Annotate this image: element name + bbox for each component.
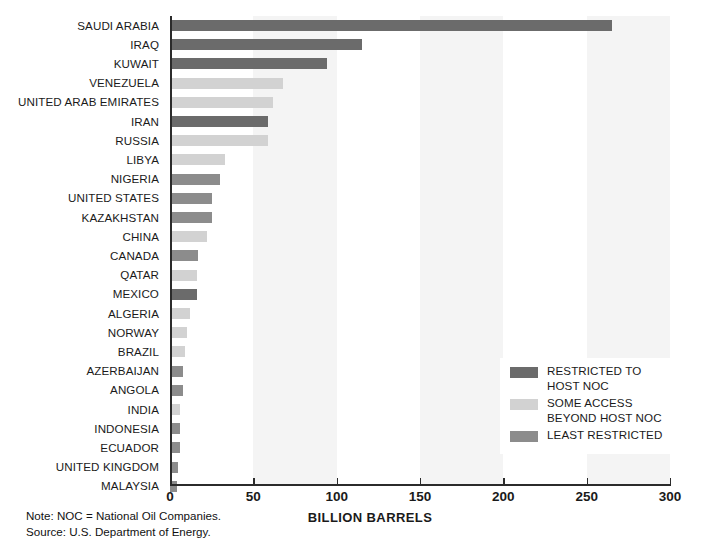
bar <box>170 231 207 242</box>
category-label: IRAN <box>131 115 159 128</box>
x-tick-label: 100 <box>325 489 348 504</box>
x-tick-label: 250 <box>575 489 598 504</box>
x-tick <box>587 478 588 485</box>
bar <box>170 154 225 165</box>
bar-row <box>170 54 670 73</box>
category-label: MEXICO <box>113 287 159 300</box>
category-label: KAZAKHSTAN <box>82 211 159 224</box>
legend-swatch <box>510 399 538 410</box>
bar-row <box>170 458 670 477</box>
legend-swatch <box>510 431 538 442</box>
legend-label-line: SOME ACCESS <box>547 396 662 411</box>
bar-row <box>170 208 670 227</box>
bar <box>170 327 187 338</box>
note-line: Note: NOC = National Oil Companies. <box>26 508 221 524</box>
bar-row <box>170 74 670 93</box>
category-label: ANGOLA <box>110 383 159 396</box>
bar <box>170 250 198 261</box>
chart-notes: Note: NOC = National Oil Companies. Sour… <box>26 508 221 539</box>
legend-label-line: LEAST RESTRICTED <box>547 428 662 443</box>
legend-item: LEAST RESTRICTED <box>510 428 680 443</box>
bar <box>170 270 197 281</box>
category-label: CANADA <box>110 249 159 262</box>
x-tick-label: 200 <box>492 489 515 504</box>
bar <box>170 58 327 69</box>
horizontal-bar-chart: SAUDI ARABIAIRAQKUWAITVENEZUELAUNITED AR… <box>0 0 709 554</box>
bar <box>170 346 185 357</box>
legend-label: SOME ACCESSBEYOND HOST NOC <box>547 396 662 425</box>
category-label: UNITED KINGDOM <box>56 460 159 473</box>
category-label: INDONESIA <box>94 422 159 435</box>
category-label: VENEZUELA <box>89 76 159 89</box>
x-axis-title: BILLION BARRELS <box>308 510 432 525</box>
bar-row <box>170 150 670 169</box>
category-label: MALAYSIA <box>101 479 159 492</box>
legend-swatch <box>510 367 538 378</box>
bar <box>170 212 212 223</box>
x-tick-label: 300 <box>659 489 682 504</box>
x-tick-label: 0 <box>166 489 174 504</box>
category-label: UNITED STATES <box>68 191 159 204</box>
bar-row <box>170 112 670 131</box>
bar-row <box>170 131 670 150</box>
x-tick-label: 150 <box>409 489 432 504</box>
x-tick <box>253 478 254 485</box>
x-tick <box>420 478 421 485</box>
bar-row <box>170 285 670 304</box>
bar <box>170 366 183 377</box>
category-label: QATAR <box>120 268 159 281</box>
legend-label-line: BEYOND HOST NOC <box>547 411 662 426</box>
bar-row <box>170 304 670 323</box>
x-tick <box>670 478 671 485</box>
category-label: SAUDI ARABIA <box>77 19 159 32</box>
category-label: RUSSIA <box>115 134 159 147</box>
source-line: Source: U.S. Department of Energy. <box>26 524 221 540</box>
bar <box>170 116 268 127</box>
bar-row <box>170 189 670 208</box>
bar-row <box>170 16 670 35</box>
category-label: CHINA <box>122 230 159 243</box>
legend: RESTRICTED TOHOST NOCSOME ACCESSBEYOND H… <box>500 358 690 454</box>
y-axis-line <box>170 16 172 486</box>
bar <box>170 289 197 300</box>
category-label: ECUADOR <box>100 441 159 454</box>
bar-row <box>170 35 670 54</box>
bar-row <box>170 227 670 246</box>
legend-label: LEAST RESTRICTED <box>547 428 662 443</box>
bar-row <box>170 266 670 285</box>
category-label: KUWAIT <box>114 57 159 70</box>
bar-row <box>170 323 670 342</box>
x-tick <box>170 478 171 485</box>
bar <box>170 385 183 396</box>
category-label: INDIA <box>128 403 159 416</box>
legend-item: RESTRICTED TOHOST NOC <box>510 364 680 393</box>
legend-item: SOME ACCESSBEYOND HOST NOC <box>510 396 680 425</box>
category-label: ALGERIA <box>108 307 159 320</box>
bar <box>170 135 268 146</box>
legend-label-line: HOST NOC <box>547 379 641 394</box>
bar-row <box>170 170 670 189</box>
bar <box>170 308 190 319</box>
bar <box>170 174 220 185</box>
bar <box>170 39 362 50</box>
bar-row <box>170 246 670 265</box>
category-label: AZERBAIJAN <box>86 364 159 377</box>
category-label: NIGERIA <box>111 172 159 185</box>
bar <box>170 78 283 89</box>
category-label: NORWAY <box>108 326 159 339</box>
bar <box>170 20 612 31</box>
category-label: IRAQ <box>130 38 159 51</box>
bar <box>170 193 212 204</box>
x-tick <box>337 478 338 485</box>
bar <box>170 97 273 108</box>
legend-label-line: RESTRICTED TO <box>547 364 641 379</box>
category-label: UNITED ARAB EMIRATES <box>18 95 159 108</box>
category-label: LIBYA <box>126 153 159 166</box>
legend-label: RESTRICTED TOHOST NOC <box>547 364 641 393</box>
x-tick <box>503 478 504 485</box>
x-tick-label: 50 <box>246 489 261 504</box>
bar-row <box>170 93 670 112</box>
category-label: BRAZIL <box>118 345 159 358</box>
category-axis-labels: SAUDI ARABIAIRAQKUWAITVENEZUELAUNITED AR… <box>0 16 165 486</box>
